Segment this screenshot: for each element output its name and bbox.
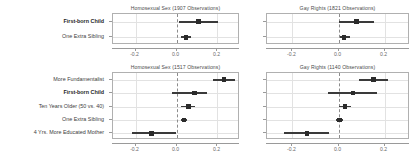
y-axis-tick [263, 106, 266, 107]
point-estimate-marker [337, 118, 342, 123]
point-estimate-marker [371, 77, 376, 82]
y-axis-tick [263, 119, 266, 120]
panel-bottom-right: Gay Rights (1140 Observations)-0.20.00.2 [0, 64, 416, 151]
plot-area [266, 72, 409, 139]
plot-area [266, 13, 409, 44]
point-estimate-marker [305, 131, 310, 136]
y-axis-tick [263, 132, 266, 133]
gridline-horizontal [267, 22, 408, 23]
x-axis-tick-label: 0.2 [372, 146, 396, 152]
gridline-horizontal [267, 37, 408, 38]
x-axis-tick-label: 0.0 [326, 51, 350, 57]
x-axis-tick-label: -0.2 [279, 146, 303, 152]
panel-title: Gay Rights (1821 Observations) [266, 5, 409, 12]
zero-reference-line [339, 14, 340, 43]
gridline-vertical [385, 73, 386, 138]
y-axis-tick [263, 21, 266, 22]
gridline-vertical [385, 14, 386, 43]
x-axis-tick-label: -0.2 [279, 51, 303, 57]
x-axis-tick-label: 0.0 [326, 146, 350, 152]
point-estimate-marker [342, 35, 347, 40]
gridline-vertical [292, 14, 293, 43]
panel-title: Gay Rights (1140 Observations) [266, 64, 409, 71]
x-axis-tick-label: 0.2 [372, 51, 396, 57]
panel-top-right: Gay Rights (1821 Observations)-0.20.00.2 [0, 5, 416, 56]
y-axis-tick [263, 79, 266, 80]
y-axis-tick [263, 92, 266, 93]
forest-plot-figure: Homosexual Sex (1907 Observations)First-… [0, 0, 416, 159]
gridline-vertical [292, 73, 293, 138]
point-estimate-marker [343, 104, 348, 109]
gridline-horizontal [267, 107, 408, 108]
y-axis-tick [263, 36, 266, 37]
point-estimate-marker [351, 91, 356, 96]
point-estimate-marker [354, 19, 359, 24]
